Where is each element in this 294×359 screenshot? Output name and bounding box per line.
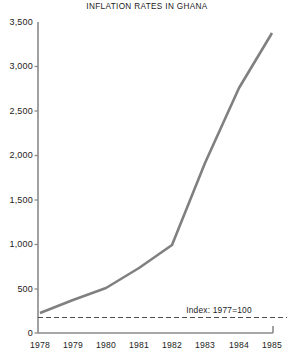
y-axis-tick-labels: 3,500 3,000 2,500 2,000 1,500 1,000 500 … xyxy=(9,17,33,338)
x-tick-label-1979: 1979 xyxy=(63,340,83,350)
y-tick-label-500: 500 xyxy=(17,284,33,294)
y-tick-label-2500: 2,500 xyxy=(9,106,33,116)
y-tick-label-1500: 1,500 xyxy=(9,195,33,205)
chart-container: INFLATION RATES IN GHANA 3,500 3,000 2,5… xyxy=(0,0,294,359)
x-tick-label-1983: 1983 xyxy=(195,340,215,350)
x-tick-label-1980: 1980 xyxy=(96,340,116,350)
x-tick-label-1978: 1978 xyxy=(30,340,50,350)
x-tick-label-1982: 1982 xyxy=(162,340,182,350)
y-tick-label-3000: 3,000 xyxy=(9,61,33,71)
x-tick-label-1984: 1984 xyxy=(229,340,249,350)
x-tick-label-1985: 1985 xyxy=(262,340,282,350)
x-tick-label-1981: 1981 xyxy=(129,340,149,350)
y-tick-label-3500: 3,500 xyxy=(9,17,33,27)
inflation-data-line xyxy=(40,33,272,313)
figure-caption-cropped xyxy=(6,350,181,359)
x-axis-tick-labels: 1978 1979 1980 1981 1982 1983 1984 1985 xyxy=(30,340,282,350)
index-reference-label: Index: 1977=100 xyxy=(186,305,252,315)
y-tick-label-0: 0 xyxy=(28,328,33,338)
chart-plot-area: 3,500 3,000 2,500 2,000 1,500 1,000 500 … xyxy=(0,0,294,359)
y-tick-label-2000: 2,000 xyxy=(9,150,33,160)
y-tick-label-1000: 1,000 xyxy=(9,239,33,249)
